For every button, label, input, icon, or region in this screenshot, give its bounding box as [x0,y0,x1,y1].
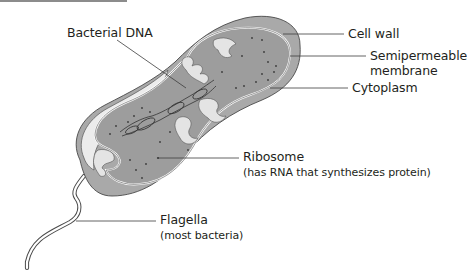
label-membrane-line1: Semipermeable [370,49,467,63]
label-flagella-note: (most bacteria) [160,229,243,242]
flagellum [27,176,84,268]
label-ribosome-note: (has RNA that synthesizes protein) [243,166,431,179]
label-flagella: Flagella [160,213,208,227]
label-cytoplasm: Cytoplasm [352,81,418,95]
label-cell-wall: Cell wall [348,27,399,41]
label-bacterial-dna: Bacterial DNA [67,26,153,40]
label-ribosome: Ribosome [243,150,304,164]
label-membrane-line2: membrane [370,64,438,78]
